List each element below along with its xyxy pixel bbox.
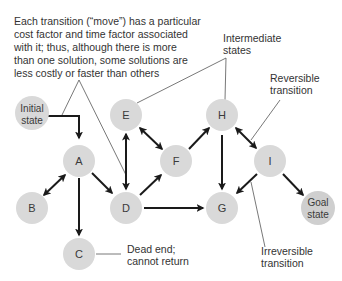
main-annotation-line-3: with it; thus, although there is more [13, 41, 177, 53]
node-initial-state: Initial state [15, 96, 49, 130]
state-space-diagram: Each transition (“move”) has a particula… [0, 0, 342, 281]
edge-i-to-g [237, 174, 257, 193]
node-goal-label-1: Goal [307, 197, 328, 208]
main-annotation: Each transition (“move”) has a particula… [13, 15, 201, 79]
node-goal-label-2: state [307, 209, 329, 220]
edge-a-to-d [92, 173, 112, 193]
node-f-label: F [173, 155, 180, 167]
node-g: G [206, 192, 238, 224]
irreversible-transition-label: Irreversible transition [261, 245, 313, 269]
dead-end-label: Dead end; cannot return [127, 243, 189, 267]
node-d: D [110, 192, 142, 224]
node-initial-label-2: state [21, 115, 43, 126]
main-annotation-line-2: cost factor and time factor associated [14, 28, 188, 40]
node-g-label: G [218, 202, 227, 214]
main-annotation-line-4: than one solution, some solutions are [14, 54, 188, 66]
node-h-label: H [218, 109, 226, 121]
edge-f-to-h [189, 128, 209, 149]
edge-i-to-goal [283, 174, 303, 195]
reversible-line-2: transition [270, 84, 313, 96]
node-f: F [160, 145, 192, 177]
node-d-label: D [122, 202, 130, 214]
node-h: H [206, 99, 238, 131]
irreversible-line-1: Irreversible [261, 245, 313, 257]
node-e-label: E [122, 109, 129, 121]
edge-h-i [236, 128, 256, 148]
node-a: A [63, 145, 95, 177]
dead-end-line-2: cannot return [127, 255, 189, 267]
intermediate-line-2: states [223, 44, 251, 56]
node-b-label: B [28, 202, 35, 214]
node-initial-label-1: Initial [20, 103, 43, 114]
edge-initial-to-a [47, 116, 79, 138]
node-goal-state: Goal state [301, 191, 335, 225]
intermediate-states-label: Intermediate states [223, 32, 282, 56]
edge-e-f [140, 128, 162, 149]
node-c-label: C [75, 248, 83, 260]
node-i-label: I [268, 155, 271, 167]
node-b: B [16, 192, 48, 224]
node-c: C [63, 238, 95, 270]
reversible-transition-label: Reversible transition [270, 72, 320, 96]
irreversible-line-2: transition [261, 257, 304, 269]
main-annotation-line-1: Each transition (“move”) has a particula… [14, 15, 201, 27]
node-a-label: A [75, 155, 83, 167]
main-annotation-line-5: less costly or faster than others [14, 67, 159, 79]
intermediate-line-1: Intermediate [223, 32, 282, 44]
dead-end-line-1: Dead end; [127, 243, 175, 255]
reversible-transition-leader [251, 100, 280, 140]
node-e: E [110, 99, 142, 131]
reversible-line-1: Reversible [270, 72, 320, 84]
irreversible-transition-leader [251, 182, 265, 247]
edge-a-b [44, 175, 65, 195]
node-i: I [254, 145, 286, 177]
edge-d-to-f [140, 175, 161, 195]
